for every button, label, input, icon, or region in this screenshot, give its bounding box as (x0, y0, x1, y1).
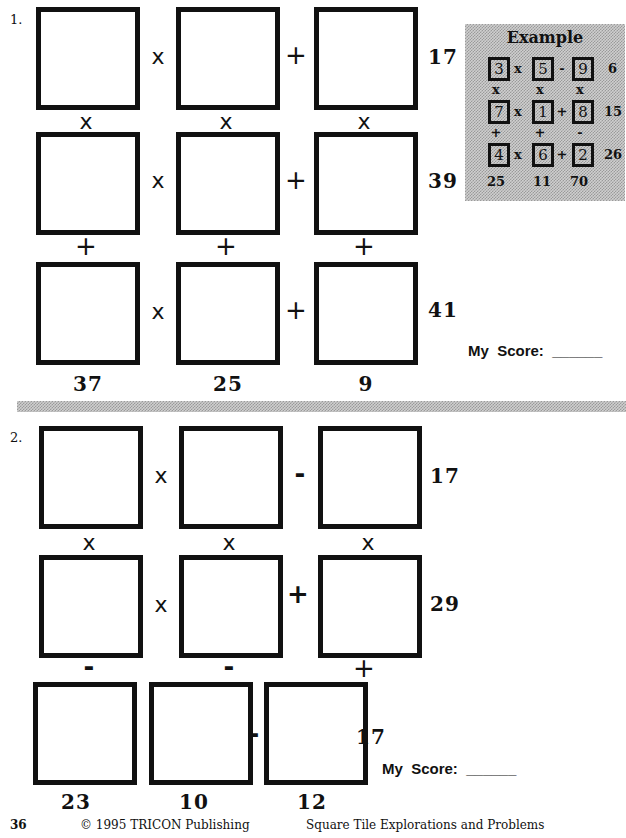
operator-plus: + (286, 583, 310, 605)
answer-box-r1c1[interactable] (36, 7, 140, 110)
column-result: 10 (142, 790, 246, 814)
score-field[interactable]: My Score: ______ (468, 342, 602, 359)
operator-multiply: x (149, 594, 173, 616)
vertical-operator-plus: + (352, 657, 376, 679)
answer-box-r3c3[interactable] (264, 682, 368, 785)
example-row-result: 15 (604, 104, 622, 119)
row-result: 41 (428, 298, 458, 322)
column-result: 37 (36, 372, 140, 396)
vertical-operator-multiply: x (77, 532, 101, 554)
vertical-operator-multiply: x (214, 111, 238, 133)
example-cell: 3 (488, 57, 510, 81)
answer-box-r2c2[interactable] (179, 555, 283, 658)
example-operator: + (555, 104, 569, 119)
answer-box-r3c1[interactable] (36, 262, 140, 365)
copyright: © 1995 TRICON Publishing (80, 818, 250, 832)
book-title: Square Tile Explorations and Problems (306, 818, 544, 832)
example-vertical-op: x (573, 82, 587, 97)
operator-multiply: x (146, 170, 170, 192)
operator-plus: + (284, 44, 308, 66)
vertical-operator-minus: - (77, 656, 101, 678)
example-cell: 4 (488, 143, 510, 167)
vertical-operator-minus: - (217, 656, 241, 678)
example-row-result: 6 (608, 61, 617, 76)
operator-multiply: x (146, 46, 170, 68)
example-column-result: 25 (487, 174, 505, 189)
vertical-operator-plus: + (214, 235, 238, 257)
row-result: 29 (430, 592, 460, 616)
example-operator: x (511, 147, 525, 162)
row-result: 17 (356, 725, 386, 749)
answer-box-r3c2[interactable] (176, 262, 280, 365)
example-operator: x (511, 61, 525, 76)
operator-multiply: x (146, 301, 170, 323)
row-result: 17 (428, 45, 458, 69)
answer-box-r2c3[interactable] (314, 132, 418, 235)
example-title: Example (465, 28, 625, 47)
answer-box-r1c2[interactable] (176, 7, 280, 110)
score-field[interactable]: My Score: ______ (382, 760, 516, 777)
column-result: 12 (260, 790, 364, 814)
answer-box-r2c2[interactable] (176, 132, 280, 235)
operator-plus: + (284, 169, 308, 191)
vertical-operator-multiply: x (356, 532, 380, 554)
operator-plus: + (284, 299, 308, 321)
answer-box-r1c3[interactable] (318, 426, 422, 529)
example-vertical-op: + (489, 125, 503, 140)
problem-number: 1. (10, 12, 22, 27)
column-result: 23 (24, 790, 128, 814)
row-result: 39 (428, 169, 458, 193)
example-row-result: 26 (604, 147, 622, 162)
operator-minus: - (288, 463, 312, 485)
example-cell: 1 (532, 100, 554, 124)
example-cell: 9 (572, 57, 594, 81)
operator-multiply: x (149, 465, 173, 487)
answer-box-r2c3[interactable] (318, 555, 422, 658)
page-number: 36 (10, 818, 27, 832)
example-operator: + (555, 147, 569, 162)
answer-box-r1c1[interactable] (39, 426, 143, 529)
column-result: 25 (176, 372, 280, 396)
example-vertical-op: + (533, 125, 547, 140)
example-panel: Example 3 x 5 - 9 6 x x x 7 x 1 + 8 15 +… (465, 24, 625, 201)
answer-box-r3c2[interactable] (149, 682, 253, 785)
example-cell: 8 (572, 100, 594, 124)
example-vertical-op: x (533, 82, 547, 97)
example-cell: 2 (572, 143, 594, 167)
answer-box-r3c3[interactable] (314, 262, 418, 365)
example-vertical-op: x (489, 82, 503, 97)
row-result: 17 (430, 464, 460, 488)
answer-box-r1c2[interactable] (179, 426, 283, 529)
vertical-operator-plus: + (74, 235, 98, 257)
example-cell: 7 (488, 100, 510, 124)
example-operator: - (555, 61, 569, 76)
example-cell: 6 (532, 143, 554, 167)
example-column-result: 70 (570, 174, 588, 189)
vertical-operator-multiply: x (74, 111, 98, 133)
vertical-operator-multiply: x (352, 111, 376, 133)
answer-box-r2c1[interactable] (39, 555, 143, 658)
example-vertical-op: - (573, 125, 587, 140)
example-operator: x (511, 104, 525, 119)
vertical-operator-multiply: x (217, 532, 241, 554)
answer-box-r2c1[interactable] (36, 132, 140, 235)
answer-box-r1c3[interactable] (314, 7, 418, 110)
vertical-operator-plus: + (352, 235, 376, 257)
problem-number: 2. (10, 430, 22, 445)
example-cell: 5 (532, 57, 554, 81)
answer-box-r3c1[interactable] (33, 682, 137, 785)
column-result: 9 (314, 372, 418, 396)
example-column-result: 11 (533, 174, 551, 189)
section-divider (17, 401, 626, 412)
operator-minus: - (242, 723, 266, 745)
